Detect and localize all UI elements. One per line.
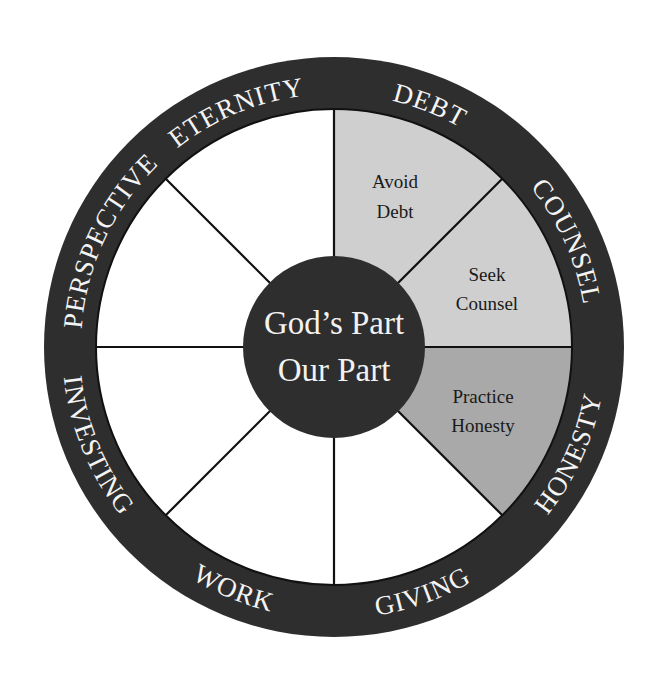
segment-label-counsel: Counsel (456, 293, 518, 314)
segment-label-seek: Seek (469, 264, 506, 285)
segment-label-avoid: Avoid (372, 171, 419, 192)
center-hub (243, 256, 425, 438)
hub-label-our-part: Our Part (278, 352, 391, 388)
segment-label-practice: Practice (452, 386, 513, 407)
segment-label-honesty: Honesty (451, 415, 515, 436)
financial-principles-wheel: God’s Part Our Part Avoid Debt Seek Coun… (0, 0, 652, 684)
segment-label-debt: Debt (377, 201, 415, 222)
hub-label-gods-part: God’s Part (264, 305, 404, 341)
